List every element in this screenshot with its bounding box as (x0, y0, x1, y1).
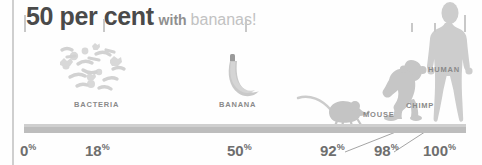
caption-chimp: CHIMP (406, 101, 434, 110)
axis-label-0: 0% (20, 142, 36, 159)
infographic-canvas: 50 per centwithbananas! (0, 0, 482, 165)
caption-mouse: MOUSE (363, 110, 395, 119)
percent-scale-bar (24, 124, 466, 133)
axis-label-92-pct: % (337, 142, 345, 152)
tick-50 (245, 19, 247, 32)
caption-bacteria: BACTERIA (74, 100, 119, 109)
axis-label-0-pct: % (28, 142, 36, 152)
axis-label-50-value: 50 (227, 142, 244, 159)
axis-label-98: 98% (374, 142, 399, 159)
page-title: 50 per centwithbananas! (26, 3, 256, 33)
axis-label-100: 100% (423, 142, 456, 159)
tick-0 (24, 15, 26, 32)
axis-label-18-pct: % (102, 142, 110, 152)
banana-icon (218, 54, 264, 102)
scale-bar-highlight (24, 124, 466, 127)
axis-label-92: 92% (320, 142, 345, 159)
axis-label-18-value: 18 (85, 142, 102, 159)
axis-label-50-pct: % (244, 142, 252, 152)
title-lead: 50 per cent (26, 2, 154, 30)
tick-92 (411, 23, 413, 32)
axis-label-98-pct: % (391, 142, 399, 152)
left-vertical-rule (12, 0, 14, 165)
caption-banana: BANANA (219, 100, 256, 109)
axis-label-100-pct: % (448, 142, 456, 152)
axis-label-50: 50% (227, 142, 252, 159)
caption-human: HUMAN (428, 65, 460, 74)
axis-label-98-value: 98 (374, 142, 391, 159)
axis-label-92-value: 92 (320, 142, 337, 159)
tick-98 (434, 23, 436, 32)
tick-100 (464, 15, 466, 32)
axis-label-100-value: 100 (423, 142, 448, 159)
axis-label-18: 18% (85, 142, 110, 159)
bacteria-cluster-icon (52, 42, 134, 94)
tick-18 (103, 19, 105, 32)
title-with: with (159, 12, 187, 28)
